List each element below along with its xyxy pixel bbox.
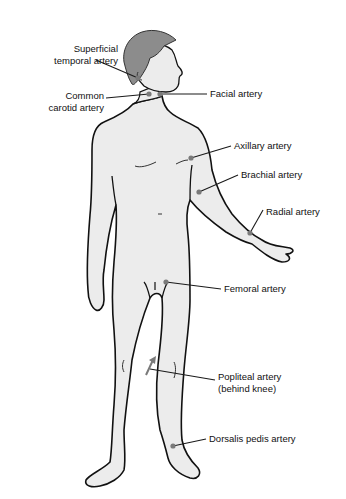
label-brachial: Brachial artery: [241, 169, 341, 181]
leader-line-radial: [250, 210, 263, 233]
pulse-point-axillary: [188, 155, 193, 160]
label-radial: Radial artery: [266, 206, 346, 218]
pulse-point-brachial: [196, 189, 201, 194]
label-line: Popliteal artery: [218, 371, 328, 383]
pulse-point-common-carotid: [146, 91, 151, 96]
label-axillary: Axillary artery: [234, 140, 334, 152]
label-dorsalis-pedis: Dorsalis pedis artery: [209, 433, 339, 445]
label-popliteal: Popliteal artery(behind knee): [218, 371, 328, 395]
pulse-point-facial: [157, 91, 162, 96]
popliteal-arrow-icon: [146, 356, 156, 375]
label-facial: Facial artery: [210, 88, 310, 100]
label-line: Radial artery: [266, 206, 346, 218]
label-line: temporal artery: [10, 55, 118, 67]
label-line: Femoral artery: [224, 283, 324, 295]
label-line: Brachial artery: [241, 169, 341, 181]
artery-diagram: Superficialtemporal arteryCommoncarotid …: [0, 0, 346, 499]
label-line: carotid artery: [10, 102, 104, 114]
label-line: Common: [10, 90, 104, 102]
head: [124, 30, 182, 104]
label-line: Dorsalis pedis artery: [209, 433, 339, 445]
label-line: (behind knee): [218, 383, 328, 395]
pulse-point-dorsalis-pedis: [170, 443, 175, 448]
label-femoral: Femoral artery: [224, 283, 324, 295]
human-figure-illustration: [0, 0, 346, 499]
pulse-point-superficial-temporal: [135, 75, 140, 80]
label-line: Facial artery: [210, 88, 310, 100]
label-common-carotid: Commoncarotid artery: [10, 90, 104, 114]
pulse-point-femoral: [163, 279, 168, 284]
label-line: Axillary artery: [234, 140, 334, 152]
pulse-point-radial: [247, 230, 252, 235]
label-superficial-temporal: Superficialtemporal artery: [10, 43, 118, 67]
label-line: Superficial: [10, 43, 118, 55]
